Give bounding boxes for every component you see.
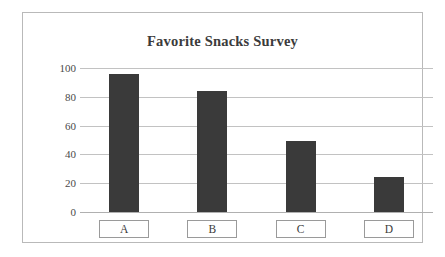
gridline-100 <box>80 68 433 69</box>
chart-frame: Favorite Snacks Survey 020406080100 ABCD <box>22 12 423 243</box>
plot-area <box>80 68 433 212</box>
bar-D <box>374 177 404 212</box>
x-label-A: A <box>99 220 149 238</box>
x-label-B: B <box>187 220 237 238</box>
y-tick-label-60: 60 <box>36 121 76 132</box>
y-tick-label-20: 20 <box>36 178 76 189</box>
bar-C <box>286 141 316 212</box>
chart-title: Favorite Snacks Survey <box>23 33 422 50</box>
x-label-D: D <box>364 220 414 238</box>
y-tick-label-80: 80 <box>36 92 76 103</box>
x-label-C: C <box>276 220 326 238</box>
y-axis-tick-labels: 020406080100 <box>32 68 76 212</box>
chart-screenshot: Favorite Snacks Survey 020406080100 ABCD <box>0 0 445 257</box>
bar-B <box>197 91 227 212</box>
y-tick-label-0: 0 <box>36 207 76 218</box>
bar-A <box>109 74 139 212</box>
y-tick-label-40: 40 <box>36 149 76 160</box>
x-axis-category-labels: ABCD <box>80 220 433 240</box>
gridline-0 <box>80 212 433 213</box>
y-tick-label-100: 100 <box>36 63 76 74</box>
